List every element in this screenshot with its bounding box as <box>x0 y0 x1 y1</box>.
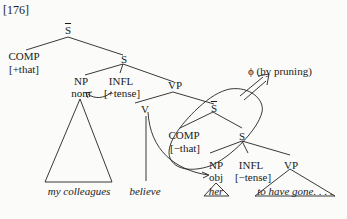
node-comp-top: COMP <box>8 51 39 62</box>
node-sbar-top: S <box>65 25 71 36</box>
node-vp-top: VP <box>168 80 182 91</box>
node-comp-low: COMP <box>168 130 199 141</box>
node-infl-top-feature: [+tense] <box>104 88 140 99</box>
node-np-subject: NP <box>74 76 88 87</box>
node-s-low: S <box>239 131 245 142</box>
node-np-object-case: obj <box>209 172 223 183</box>
leaf-object: her <box>209 186 224 197</box>
node-s-top: S <box>121 54 127 65</box>
leaf-subject: my colleagues <box>48 186 111 197</box>
node-vp-low: VP <box>284 160 298 171</box>
node-comp-low-feature: [−that] <box>170 143 200 154</box>
node-sbar-low: S <box>211 103 217 114</box>
node-np-object: NP <box>209 160 223 171</box>
leaf-verb: believe <box>129 186 160 197</box>
node-np-subject-case: nom <box>71 88 91 99</box>
node-infl-low: INFL <box>239 160 263 171</box>
pruning-annotation: ϕ (by pruning) <box>248 66 312 77</box>
node-comp-top-feature: [+that] <box>9 64 39 75</box>
leaf-complement: to have gone. . . . <box>257 186 332 197</box>
node-infl-low-feature: [−tense] <box>235 172 271 183</box>
node-infl-top: INFL <box>109 76 133 87</box>
node-v: V <box>141 104 149 115</box>
example-number: [176] <box>3 5 29 16</box>
